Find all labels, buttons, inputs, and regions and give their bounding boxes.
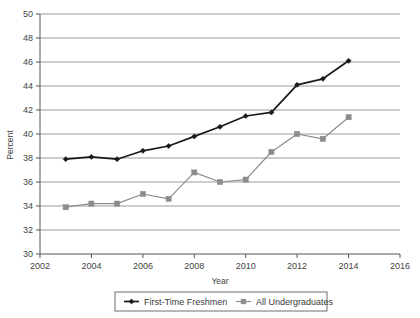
x-tick-label: 2006	[133, 261, 153, 271]
x-tick-label: 2014	[339, 261, 359, 271]
x-tick-label: 2002	[30, 261, 50, 271]
line-chart: 3032343638404244464850 20022004200620082…	[0, 0, 420, 318]
data-point-marker	[166, 196, 171, 201]
legend-label: All Undergraduates	[256, 297, 334, 307]
y-tick-label: 40	[23, 129, 33, 139]
data-point-marker	[115, 201, 120, 206]
y-tick-label: 38	[23, 153, 33, 163]
data-point-marker	[192, 170, 197, 175]
y-tick-label: 36	[23, 177, 33, 187]
data-point-marker	[89, 201, 94, 206]
x-tick-label: 2016	[390, 261, 410, 271]
y-tick-label: 30	[23, 249, 33, 259]
data-point-marker	[241, 299, 246, 304]
y-tick-label: 32	[23, 225, 33, 235]
data-point-marker	[63, 205, 68, 210]
data-point-marker	[269, 149, 274, 154]
y-tick-label: 34	[23, 201, 33, 211]
y-tick-label: 48	[23, 33, 33, 43]
chart-legend: First-Time FreshmenAll Undergraduates	[115, 292, 334, 311]
data-point-marker	[243, 177, 248, 182]
x-tick-label: 2010	[236, 261, 256, 271]
x-tick-label: 2008	[184, 261, 204, 271]
data-point-marker	[140, 191, 145, 196]
y-tick-label: 42	[23, 105, 33, 115]
y-tick-label: 50	[23, 9, 33, 19]
data-point-marker	[320, 136, 325, 141]
x-tick-label: 2004	[81, 261, 101, 271]
data-point-marker	[295, 131, 300, 136]
x-axis-title: Year	[211, 276, 228, 286]
data-point-marker	[346, 115, 351, 120]
y-tick-label: 46	[23, 57, 33, 67]
x-tick-label: 2012	[287, 261, 307, 271]
y-axis-title: Percent	[5, 130, 15, 160]
data-point-marker	[217, 179, 222, 184]
y-tick-label: 44	[23, 81, 33, 91]
chart-canvas: 3032343638404244464850 20022004200620082…	[0, 0, 420, 318]
legend-label: First-Time Freshmen	[144, 297, 227, 307]
